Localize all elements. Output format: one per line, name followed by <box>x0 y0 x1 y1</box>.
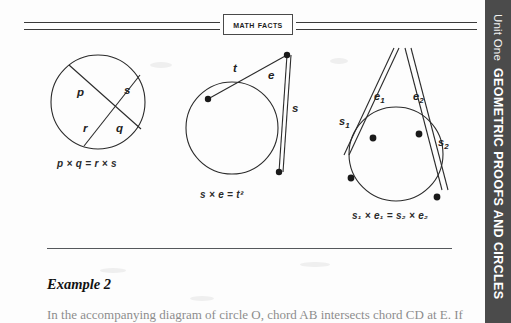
secant-far-point <box>276 169 282 175</box>
example-body-prefix: In the accompanying diagram of circle O,… <box>47 307 299 322</box>
label-s: s <box>292 102 298 114</box>
label-s: s <box>124 84 130 96</box>
banner-rule-right <box>296 22 477 30</box>
vertex-point-external <box>284 52 290 58</box>
secant-line-outer <box>283 55 291 172</box>
math-facts-figures: p s r q p × q = r × s t e s <box>0 42 485 237</box>
formula-chords: p × q = r × s <box>57 158 117 169</box>
label-r: r <box>83 122 88 134</box>
segment-ab: AB <box>299 307 317 322</box>
label-t: t <box>233 62 238 74</box>
example-body-mid: intersects chord <box>317 307 405 322</box>
banner-title: Math Facts <box>233 19 282 30</box>
two-secants-figure: e1 e2 s1 s2 s₁ × e₁ = s₂ × e₂ <box>325 42 475 222</box>
example-heading: Example 2 <box>47 276 111 293</box>
textbook-page: Math Facts p s r q p × q = r × s <box>0 0 511 323</box>
banner-rule-left <box>24 22 220 30</box>
unit-number-label: Unit One <box>492 14 504 61</box>
section-divider <box>47 248 452 249</box>
intersecting-chords-svg: p s r q <box>40 42 170 167</box>
intersecting-chords-figure: p s r q p × q = r × s <box>40 42 170 167</box>
circle-outline <box>186 82 278 174</box>
banner-box: Math Facts <box>223 14 293 35</box>
unit-tab-inner: Unit One GEOMETRIC PROOFS AND CIRCLES <box>485 0 511 323</box>
tangent-line <box>208 55 287 99</box>
formula-two-secants: s₁ × e₁ = s₂ × e₂ <box>352 210 428 221</box>
circle-outline <box>51 55 145 149</box>
label-q: q <box>116 122 123 134</box>
tangent-secant-svg: t e s <box>175 42 315 202</box>
formula-tangent-secant: s × e = t² <box>200 189 244 200</box>
label-e: e <box>268 69 275 81</box>
label-s2: s2 <box>438 136 449 151</box>
label-p: p <box>76 86 84 98</box>
math-facts-banner: Math Facts <box>0 14 485 36</box>
unit-tab: Unit One GEOMETRIC PROOFS AND CIRCLES <box>485 0 511 323</box>
secant-right-b <box>411 48 448 190</box>
scan-speckle <box>190 296 214 301</box>
left-far-point <box>348 175 355 182</box>
scan-speckle <box>300 262 330 267</box>
right-far-point <box>434 194 441 201</box>
example-body-text: In the accompanying diagram of circle O,… <box>47 307 467 323</box>
left-near-point <box>370 135 377 142</box>
secant-left-b <box>344 48 394 155</box>
unit-title-label: GEOMETRIC PROOFS AND CIRCLES <box>491 68 505 300</box>
two-secants-svg: e1 e2 s1 s2 <box>325 42 475 222</box>
right-near-point <box>416 131 423 138</box>
tangent-point <box>205 96 211 102</box>
example-body-suffix: at E. If <box>424 307 463 322</box>
secant-line-inner <box>279 55 287 172</box>
segment-cd: CD <box>406 307 424 322</box>
label-s1: s1 <box>339 115 350 130</box>
secant-right-a <box>405 48 442 190</box>
circle-outline <box>349 107 443 201</box>
tangent-secant-figure: t e s s × e = t² <box>175 42 315 202</box>
label-e1: e1 <box>374 90 385 105</box>
scan-speckle <box>100 268 126 273</box>
